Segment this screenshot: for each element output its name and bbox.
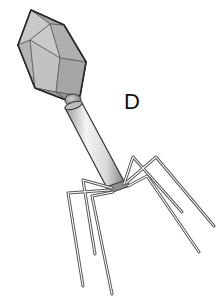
tail-sheath: [64, 99, 125, 190]
bacteriophage-illustration: [0, 0, 217, 301]
capsid-head: [18, 10, 86, 100]
figure-label: D: [124, 91, 140, 113]
tail-fibers: [68, 157, 214, 294]
